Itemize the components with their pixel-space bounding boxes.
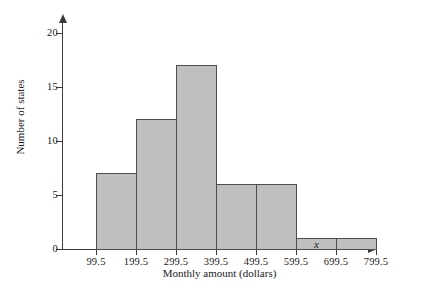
histogram-bar (176, 65, 217, 250)
plot-area: 05101520 99.5199.5299.5399.5499.5599.569… (62, 16, 377, 250)
y-tick-label: 0 (53, 244, 58, 255)
y-axis-line (62, 22, 63, 250)
y-tick-label: 20 (47, 28, 58, 39)
histogram-bar (96, 173, 137, 250)
y-axis-arrow-icon (59, 14, 67, 23)
x-tick-mark (216, 250, 217, 255)
x-tick-mark (176, 250, 177, 255)
histogram-bar (336, 238, 377, 250)
histogram-bar (216, 184, 257, 250)
x-axis-variable-label: x (314, 239, 319, 250)
x-tick-mark (376, 250, 377, 255)
y-axis-title: Number of states (12, 0, 28, 234)
x-tick-mark (96, 250, 97, 255)
histogram-figure: Number of states 05101520 99.5199.5299.5… (0, 0, 424, 296)
x-tick-mark (336, 250, 337, 255)
y-tick-label: 10 (47, 136, 58, 147)
histogram-bar (136, 119, 177, 250)
x-tick-mark (256, 250, 257, 255)
x-tick-mark (136, 250, 137, 255)
x-tick-mark (296, 250, 297, 255)
y-tick-label: 5 (53, 190, 58, 201)
histogram-bar (256, 184, 297, 250)
y-tick-label: 15 (47, 82, 58, 93)
x-axis-title: Monthly amount (dollars) (62, 266, 377, 280)
